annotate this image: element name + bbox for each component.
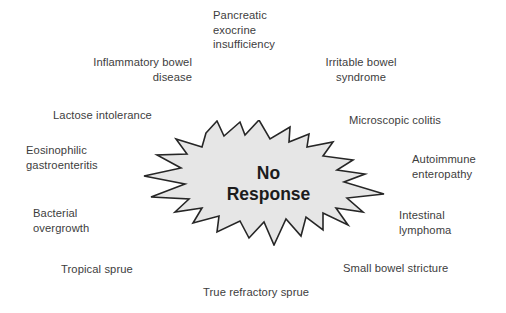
label-inflammatory-bowel-disease: Inflammatory bowel disease (80, 55, 192, 84)
no-response-starburst: No Response (143, 120, 385, 246)
label-irritable-bowel-syndrome: Irritable bowel syndrome (318, 55, 404, 84)
label-small-bowel-stricture: Small bowel stricture (343, 261, 467, 276)
label-lactose-intolerance: Lactose intolerance (53, 108, 169, 123)
label-true-refractory-sprue: True refractory sprue (203, 285, 327, 300)
label-pancreatic-exocrine-insufficiency: Pancreatic exocrine insufficiency (213, 8, 305, 52)
starburst-polygon (144, 120, 384, 245)
label-autoimmune-enteropathy: Autoimmune enteropathy (412, 152, 498, 181)
diagram-canvas: No Response Pancreatic exocrine insuffic… (0, 0, 506, 313)
label-eosinophilic-gastroenteritis: Eosinophilic gastroenteritis (26, 143, 122, 172)
label-microscopic-colitis: Microscopic colitis (349, 113, 459, 128)
starburst-shape (143, 120, 385, 246)
label-intestinal-lymphoma: Intestinal lymphoma (399, 208, 479, 237)
label-bacterial-overgrowth: Bacterial overgrowth (33, 206, 119, 235)
label-tropical-sprue: Tropical sprue (61, 262, 147, 277)
